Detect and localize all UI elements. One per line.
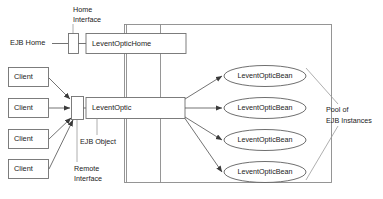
home-interface-label-line1: Home [73, 5, 92, 14]
pool-label-line2: EJB Instances [326, 116, 372, 125]
pool-bean-label-3: LeventOpticBean [237, 135, 292, 144]
client-label-4: Client [14, 164, 33, 173]
home-interface-label-line2: Interface [73, 15, 101, 24]
ejb-object-label: EJB Object [80, 137, 116, 146]
remote-interface-label-line2: Interface [74, 174, 102, 183]
pool-label-line1: Pool of [326, 105, 348, 114]
client-label-2: Client [14, 103, 33, 112]
client-label-3: Client [14, 134, 33, 143]
home-interface-rect [69, 34, 79, 54]
pool-bean-label-2: LeventOpticBean [237, 103, 292, 112]
bean-to-pool-arrow-3 [185, 117, 222, 140]
ejb-architecture-diagram: Home Interface EJB Home LeventOpticHome … [0, 0, 383, 199]
levent-optic-label: LeventOptic [92, 103, 132, 112]
client-1-to-remote-arrow [49, 78, 70, 99]
levent-optic-home-label: LeventOpticHome [92, 39, 151, 48]
ejb-home-label: EJB Home [10, 38, 45, 47]
remote-interface-rect [72, 97, 84, 120]
diagram-canvas: Home Interface EJB Home LeventOpticHome … [0, 0, 383, 199]
pool-bean-label-1: LeventOpticBean [237, 71, 292, 80]
bean-to-pool-arrow-1 [185, 76, 222, 99]
client-label-1: Client [14, 72, 33, 81]
pool-leader-lower [306, 126, 338, 180]
remote-interface-label-line1: Remote [74, 164, 99, 173]
bean-to-pool-arrow-4 [185, 119, 222, 173]
client-3-to-remote-arrow [49, 118, 71, 139]
pool-leader-upper [306, 68, 338, 104]
pool-bean-label-4: LeventOpticBean [237, 167, 292, 176]
